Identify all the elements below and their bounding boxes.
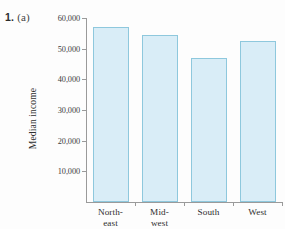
category-label-line: South xyxy=(198,207,220,217)
bar-chart-plot-area: 10,00020,00030,00040,00050,00060,000 Med… xyxy=(0,0,285,229)
bar xyxy=(240,41,276,202)
y-axis-tick-label: 30,000 xyxy=(40,106,80,115)
category-label-line: North- xyxy=(98,207,123,217)
y-axis-tick xyxy=(82,18,87,19)
category-label-line: west xyxy=(131,218,189,229)
y-axis-tick-label: 60,000 xyxy=(40,14,80,23)
x-axis-tick xyxy=(282,202,283,206)
bar xyxy=(142,35,178,202)
y-axis-title: Median income xyxy=(26,68,40,168)
y-axis-tick-label: 50,000 xyxy=(40,44,80,53)
figure-root: 1.(a) 10,00020,00030,00040,00050,00060,0… xyxy=(0,0,285,229)
y-axis-tick-label: 20,000 xyxy=(40,136,80,145)
y-axis-tick xyxy=(82,171,87,172)
category-label-line: Mid- xyxy=(150,207,169,217)
y-axis-tick xyxy=(82,79,87,80)
y-axis-tick-label: 10,000 xyxy=(40,167,80,176)
y-axis-title-text: Median income xyxy=(28,87,39,148)
y-axis-tick xyxy=(82,110,87,111)
y-axis-tick xyxy=(82,141,87,142)
x-axis-tick xyxy=(184,202,185,206)
y-axis-tick xyxy=(82,49,87,50)
bar xyxy=(93,27,129,202)
y-axis-tick-label: 40,000 xyxy=(40,75,80,84)
category-label-line: West xyxy=(248,207,267,217)
x-axis-tick xyxy=(135,202,136,206)
bar xyxy=(191,58,227,202)
x-axis-category-label: West xyxy=(229,207,286,218)
x-axis-tick xyxy=(233,202,234,206)
